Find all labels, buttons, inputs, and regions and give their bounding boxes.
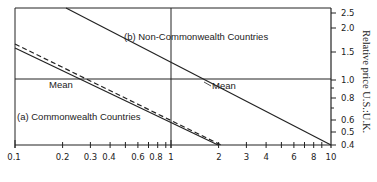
series-a-line (15, 48, 218, 145)
y-tick-label: 0.5 (341, 127, 355, 137)
series-b-label: (b) Non-Commonwealth Countries (124, 31, 268, 42)
y-tick-label: 1.0 (341, 75, 355, 85)
y-tick-label: 0.8 (341, 93, 355, 103)
series-a-label: (a) Commonwealth Countries (17, 111, 141, 122)
chart-canvas: 0.1 0.2 0.3 0.4 0.6 0.8 1 2 3 4 6 8 10 2… (0, 0, 377, 182)
y-ticks (331, 13, 336, 145)
y-tick-labels: 2.5 2.0 1.5 1.0 0.8 0.6 0.5 0.4 (341, 8, 355, 150)
y-tick-label: 0.4 (341, 140, 355, 150)
series-b-line (66, 8, 331, 145)
x-tick-label: 2 (216, 152, 221, 162)
x-tick-label: 4 (263, 152, 268, 162)
mean-label-right: Mean (212, 80, 236, 91)
x-tick-labels: 0.1 0.2 0.3 0.4 0.6 0.8 1 2 3 4 6 8 10 (7, 152, 336, 162)
x-tick-label: 8 (311, 152, 316, 162)
mean-label-left: Mean (49, 79, 73, 90)
y-tick-label: 2.5 (341, 8, 355, 18)
x-tick-label: 10 (326, 152, 337, 162)
x-tick-label: 0.2 (56, 152, 70, 162)
x-tick-label: 3 (244, 152, 249, 162)
x-ticks (15, 140, 322, 148)
y-tick-label: 2.0 (341, 23, 355, 33)
x-tick-label: 0.4 (102, 152, 116, 162)
x-tick-label: 0.6 (131, 152, 145, 162)
y-tick-label: 0.6 (341, 115, 355, 125)
x-tick-label: 1 (168, 152, 173, 162)
series-a-dashed-line (15, 44, 221, 145)
x-tick-label: 0.3 (84, 152, 98, 162)
x-tick-label: 0.8 (149, 152, 163, 162)
y-axis-label: Relative price U.S.:U.K. (361, 30, 372, 133)
x-tick-label: 6 (291, 152, 296, 162)
y-tick-label: 1.5 (341, 47, 355, 57)
x-tick-label: 0.1 (7, 152, 21, 162)
